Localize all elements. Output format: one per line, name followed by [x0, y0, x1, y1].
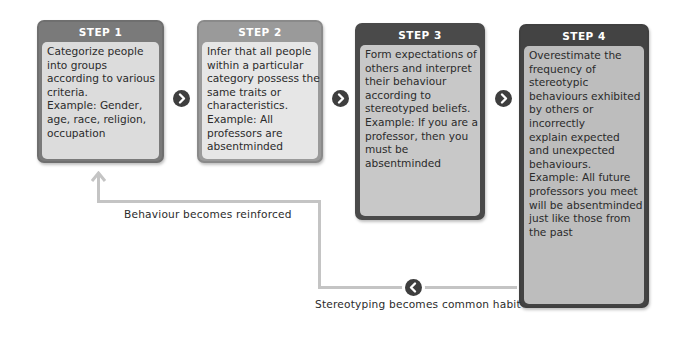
- habit-label: Stereotyping becomes common habit: [315, 298, 521, 310]
- step-1-description: Categorize people into groups according …: [42, 42, 159, 159]
- step-4-description: Overestimate the frequency of stereotypi…: [524, 46, 644, 304]
- feedback-line-top: [97, 200, 321, 203]
- step-1-title: STEP 1: [39, 22, 162, 42]
- step-2-box: STEP 2 Infer that all people within a pa…: [197, 20, 323, 163]
- feedback-line-vertical-right: [318, 200, 321, 289]
- step-3-description: Form expectations of others and interpre…: [360, 45, 480, 216]
- step-1-box: STEP 1 Categorize people into groups acc…: [37, 20, 164, 163]
- step-3-title: STEP 3: [357, 25, 483, 45]
- chevron-left-circle-icon: [405, 279, 422, 296]
- chevron-right-circle-icon: [332, 90, 349, 107]
- reinforced-label: Behaviour becomes reinforced: [124, 208, 292, 220]
- step-2-title: STEP 2: [199, 22, 321, 42]
- chevron-right-circle-icon: [173, 90, 190, 107]
- step-2-description: Infer that all people within a particula…: [202, 42, 318, 159]
- step-3-box: STEP 3 Form expectations of others and i…: [355, 23, 485, 220]
- step-4-box: STEP 4 Overestimate the frequency of ste…: [519, 24, 649, 308]
- step-4-title: STEP 4: [521, 26, 647, 46]
- arrow-up-icon: [90, 168, 107, 180]
- chevron-right-circle-icon: [495, 90, 512, 107]
